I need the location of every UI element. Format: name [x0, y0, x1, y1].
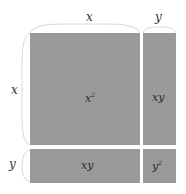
square-of-sum-diagram: x y x y x2 xy xy y2: [0, 0, 186, 194]
y-squared-exponent: 2: [158, 159, 162, 166]
left-y-label: y: [9, 158, 16, 170]
left-x-label: x: [11, 84, 18, 96]
right-xy-label: xy: [152, 92, 164, 103]
top-y-label: y: [155, 11, 162, 23]
big-square-x-squared: [30, 33, 140, 145]
right-rect-xy: [143, 33, 176, 145]
x-squared-exponent: 2: [91, 91, 95, 98]
bottom-xy-label: xy: [81, 160, 93, 171]
top-x-label: x: [86, 11, 93, 23]
x-squared-label: x2: [85, 92, 95, 104]
y-squared-label: y2: [152, 160, 162, 172]
